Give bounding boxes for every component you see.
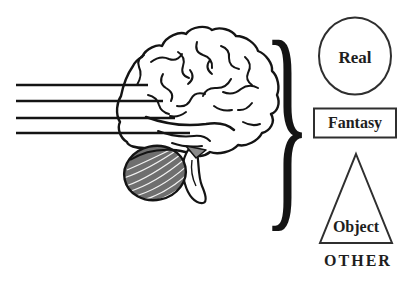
grouping-brace: } bbox=[267, 36, 307, 208]
real-label: Real bbox=[338, 49, 371, 66]
brace-glyph: } bbox=[263, 7, 311, 237]
object-label: Object bbox=[333, 219, 379, 235]
fantasy-label: Fantasy bbox=[328, 115, 382, 131]
other-caption: OTHER bbox=[324, 253, 392, 269]
diagram-graphics bbox=[0, 0, 412, 281]
brain-icon bbox=[117, 27, 279, 206]
diagram-canvas: } Real Fantasy Object OTHER bbox=[0, 0, 412, 281]
